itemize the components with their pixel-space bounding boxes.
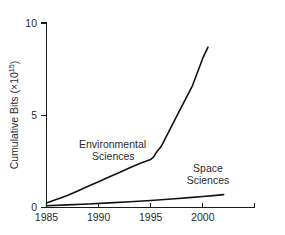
chart-container: 10 5 0 1985 1990 1995 2000 Cumulative Bi… (0, 0, 285, 235)
y-tick-label-5: 5 (31, 109, 37, 121)
y-tick-label-10: 10 (25, 17, 37, 29)
svg-text:Cumulative Bits (×1015): Cumulative Bits (×1015) (7, 61, 20, 170)
series-label-environmental-line2: Sciences (92, 150, 135, 162)
x-tick-label-1985: 1985 (35, 211, 59, 223)
series-label-environmental-line1: Environmental (79, 138, 146, 150)
series-line-environmental-sciences (47, 47, 209, 203)
y-axis-title: Cumulative Bits (×1015) (7, 61, 20, 170)
x-tick-label-2000: 2000 (191, 211, 215, 223)
series-label-space-line1: Space (193, 162, 223, 174)
line-chart: 10 5 0 1985 1990 1995 2000 Cumulative Bi… (0, 0, 285, 235)
y-axis-title-exponent: 15 (7, 64, 16, 72)
x-tick-label-1990: 1990 (87, 211, 111, 223)
series-line-space-sciences (47, 195, 224, 206)
series-label-space-line2: Sciences (187, 174, 230, 186)
y-axis-title-tail: ) (8, 61, 20, 65)
y-axis-title-main: Cumulative Bits (×10 (8, 72, 20, 169)
series-label-space-sciences: Space Sciences (187, 162, 230, 186)
x-tick-label-1995: 1995 (139, 211, 163, 223)
series-label-environmental-sciences: Environmental Sciences (79, 138, 146, 162)
